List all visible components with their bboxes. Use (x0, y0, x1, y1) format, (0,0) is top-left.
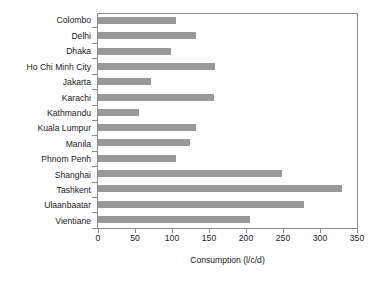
bar-slot (98, 167, 357, 182)
bar-slot (98, 29, 357, 44)
bar-slot (98, 197, 357, 212)
bar-slot (98, 60, 357, 75)
x-axis-label-group: 050100150200250300350 (97, 234, 358, 248)
bar-slot (98, 14, 357, 29)
bar[interactable] (98, 109, 139, 116)
y-axis-label-group: Colombo Delhi Dhaka Ho Chi Minh City Jak… (0, 13, 92, 229)
y-axis-tick-label: Ho Chi Minh City (27, 63, 92, 72)
y-axis-tick-label: Manila (66, 140, 92, 149)
y-axis-tick-label: Colombo (57, 16, 92, 25)
y-axis-tick-row: Ho Chi Minh City (0, 59, 92, 74)
y-axis-tick-row: Shanghai (0, 167, 92, 182)
bar-slot (98, 182, 357, 197)
y-axis-tick-label: Delhi (71, 32, 92, 41)
x-axis-tick-label: 0 (96, 234, 101, 243)
y-axis-tick-label: Jakarta (63, 78, 92, 87)
y-axis-tick-label: Ulaanbaatar (44, 201, 92, 210)
y-axis-tick-row: Manila (0, 136, 92, 151)
y-axis-tick-label: Kuala Lumpur (37, 124, 92, 133)
bar[interactable] (98, 124, 196, 131)
y-axis-tick-row: Delhi (0, 28, 92, 43)
y-axis-tick-row: Karachi (0, 90, 92, 105)
bar-slot (98, 106, 357, 121)
x-axis-tick-label: 350 (350, 234, 364, 243)
x-axis-title: Consumption (l/c/d) (97, 256, 358, 265)
y-axis-tick-label: Vientiane (55, 217, 92, 226)
bar-slot (98, 152, 357, 167)
bar[interactable] (98, 139, 190, 146)
bar[interactable] (98, 170, 282, 177)
y-axis-tick-label: Kathmandu (47, 109, 92, 118)
bar[interactable] (98, 63, 215, 70)
y-axis-tick-label: Shanghai (55, 171, 92, 180)
bar-slot (98, 136, 357, 151)
bar[interactable] (98, 94, 214, 101)
x-axis-tick-label: 200 (239, 234, 253, 243)
plot-area (97, 13, 358, 229)
y-axis-tick-row: Jakarta (0, 75, 92, 90)
y-axis-tick-label: Karachi (62, 94, 92, 103)
bar-slot (98, 75, 357, 90)
x-axis-tick-label: 50 (130, 234, 140, 243)
bar[interactable] (98, 185, 342, 192)
y-axis-tick-row: Kuala Lumpur (0, 121, 92, 136)
y-axis-tick-row: Dhaka (0, 44, 92, 59)
bar-slot (98, 90, 357, 105)
bars-layer (98, 14, 357, 228)
bar[interactable] (98, 48, 171, 55)
bar[interactable] (98, 17, 176, 24)
x-axis-tick-label: 250 (276, 234, 290, 243)
y-axis-tick-row: Vientiane (0, 213, 92, 228)
bar[interactable] (98, 201, 304, 208)
y-axis-tick-row: Tashkent (0, 183, 92, 198)
bar-slot (98, 121, 357, 136)
y-axis-tick-label: Phnom Penh (41, 155, 92, 164)
y-axis-tick-row: Ulaanbaatar (0, 198, 92, 213)
bar[interactable] (98, 216, 250, 223)
y-axis-tick-label: Dhaka (66, 47, 92, 56)
bar-chart-figure: Colombo Delhi Dhaka Ho Chi Minh City Jak… (0, 0, 375, 281)
y-axis-tick-row: Phnom Penh (0, 152, 92, 167)
x-axis-tick-label: 100 (165, 234, 179, 243)
bar[interactable] (98, 32, 196, 39)
bar[interactable] (98, 78, 151, 85)
x-axis-tick-label: 150 (202, 234, 216, 243)
y-axis-tick-row: Kathmandu (0, 106, 92, 121)
x-axis-tick-label: 300 (313, 234, 327, 243)
bar-slot (98, 45, 357, 60)
y-axis-tick-row: Colombo (0, 13, 92, 28)
bar[interactable] (98, 155, 176, 162)
y-axis-tick-label: Tashkent (57, 186, 92, 195)
bar-slot (98, 213, 357, 228)
